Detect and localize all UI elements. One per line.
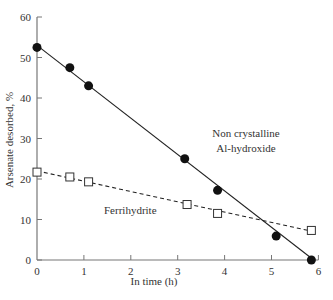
open-square-marker	[85, 178, 93, 186]
x-tick-label: 5	[269, 265, 275, 277]
y-tick-label: 10	[20, 214, 32, 226]
fit-line-1	[37, 171, 314, 232]
filled-circle-marker	[213, 186, 222, 195]
arsenate-desorption-chart: 01020304050600123456 Non crystalline Al-…	[0, 0, 333, 300]
open-square-marker	[214, 209, 222, 217]
filled-circle-marker	[84, 81, 93, 90]
y-tick-label: 20	[20, 173, 32, 185]
y-tick-label: 50	[20, 52, 32, 64]
x-tick-label: 1	[81, 265, 87, 277]
open-square-marker	[33, 168, 41, 176]
series-label-al-hydroxide-line2: Al-hydroxide	[216, 142, 275, 154]
y-tick-label: 0	[26, 254, 32, 266]
open-square-marker	[307, 226, 315, 234]
filled-circle-marker	[33, 43, 42, 52]
filled-circle-marker	[180, 154, 189, 163]
open-square-marker	[66, 173, 74, 181]
series-label-ferrihydrite: Ferrihydrite	[104, 204, 157, 216]
x-axis-label: In time (h)	[130, 275, 177, 288]
x-tick-label: 0	[34, 265, 40, 277]
y-tick-label: 30	[20, 133, 32, 145]
x-tick-label: 6	[316, 265, 322, 277]
filled-circle-marker	[65, 63, 74, 72]
filled-circle-marker	[272, 232, 281, 241]
y-axis-label: Arsenate desorbed, %	[3, 92, 15, 188]
series-labels: Non crystalline Al-hydroxide Ferrihydrit…	[104, 127, 280, 216]
filled-circle-marker	[307, 256, 316, 265]
x-tick-label: 4	[222, 265, 228, 277]
series-label-al-hydroxide-line1: Non crystalline	[212, 127, 280, 139]
open-square-marker	[183, 201, 191, 209]
y-tick-label: 60	[20, 11, 32, 23]
y-tick-label: 40	[20, 92, 32, 104]
